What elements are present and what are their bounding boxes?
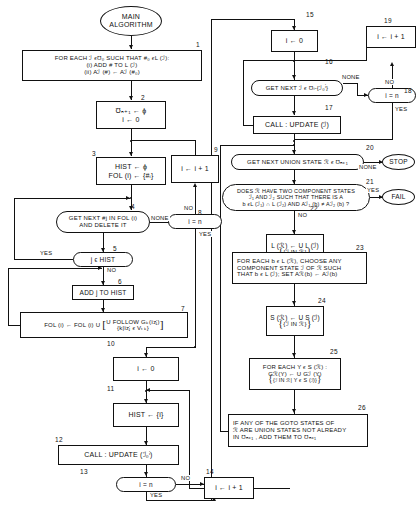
node-12: CALL : UPDATE (ℐ₀ⁱ) [58,445,179,465]
node-8: i = n [168,214,222,229]
node-7-lhs: FOL (i) ← FOL (i) U [44,322,100,329]
node-6: ADD j TO HIST [72,285,134,300]
step-number-1: 1 [196,41,200,48]
node-26-line3: IN Ʊₙ₊₁ , ADD THEM TO Ʊₙ₊₁ [233,434,365,441]
node-26-line1: IF ANY OF THE GOTO STATES OF [233,420,365,427]
node-24-line2: {ℐ IN ℛ} [283,321,306,328]
step-number-2: 2 [141,94,145,101]
node-19-line1: i ← i + 1 [375,32,407,42]
node-14: i ← i + 1 [204,477,254,499]
node-26-line2: ℛ ARE UNION STATES NOT ALREADY [233,427,365,434]
node-23-line2: COMPONENT STATE ℐ OF ℛ SUCH [237,265,364,272]
node-4: GET NEXT #j IN FOL (i) AND DELETE IT [56,211,150,233]
node-start: MAIN ALGORITHM [100,6,162,36]
node-25: FOR EACH Y ϵ S (ℛ) : Gℛ(Y) ← U Gℐ (Y) { … [249,358,341,390]
node-9: i ← i + 1 [171,155,219,183]
edge-label-none-4: NONE [150,215,170,221]
edge-label-yes-18: YES [394,106,408,112]
step-number-24: 24 [318,297,326,304]
step-number-20: 20 [366,144,374,151]
node-13: i = n [116,477,176,492]
edge-label-yes-13: YES [149,492,163,498]
edge-label-no-18: NO [384,79,395,85]
node-20: GET NEXT UNION STATE ℛ ϵ Ʊₙ₊₁ [231,154,364,170]
node-9-line1: i ← i + 1 [179,164,211,174]
step-number-3: 3 [92,150,96,157]
node-7: FOL (i) ← FOL (i) U [ U FOLLOW Gₖ(ïzⱼ) {… [20,312,188,338]
edge-label-yes-21: YES [366,187,380,193]
node-fail-label: FAIL [389,192,407,201]
step-number-16: 16 [325,58,333,65]
edge-label-no-21: NO [297,212,308,218]
node-23: FOR EACH b ϵ L (ℛ), CHOOSE ANY COMPONENT… [232,252,367,284]
step-number-22: 22 [310,205,318,212]
node-8-line1: i = n [186,217,203,226]
node-18-line1: i = n [383,91,400,100]
node-19: i ← i + 1 [366,26,416,48]
node-7-frac-bot: {k|ïzⱼ ϵ Vₜₖ} [106,325,160,331]
node-2-line2: i ← 0 [99,116,163,124]
node-fail: FAIL [382,189,415,205]
node-4-line2: AND DELETE IT [59,222,147,229]
step-number-21: 21 [366,178,374,185]
step-number-17: 17 [325,104,333,111]
node-21-line3: b ϵL (ℐ₁) ∩ L (ℐ₂) AND Aℐ₁ (b) ≠ Aℐ₂ (b)… [225,201,367,207]
edge-label-yes-5: YES [39,250,53,256]
edge-label-no-13: NO [180,475,191,481]
step-number-15: 15 [306,11,314,18]
node-11-line1: HIST ← {i} [127,410,166,420]
node-15-line1: i ← 0 [284,36,305,46]
node-24: S (ℛ) ← U S (ℐ) { {ℐ IN ℛ} } [266,306,324,336]
node-5-line1: j ϵ HIST [89,255,117,264]
step-number-13: 13 [80,468,88,475]
node-25-line3: {ℐ IN ℛ| Y ϵ S (ℐ)} [273,377,317,383]
edge-label-no-5: NO [106,267,117,273]
node-3-line2: FOL (i) ← {#ᵢ} [99,172,163,180]
node-17-line1: CALL : UPDATE (ℐ) [263,120,331,130]
node-21: DOES ℛ HAVE TWO COMPONENT STATES ℐ₁ AND … [222,184,370,211]
step-number-26: 26 [358,404,366,411]
step-number-19: 19 [384,17,392,24]
step-number-23: 23 [356,244,364,251]
step-number-6: 6 [118,278,122,285]
node-10-line1: i ← 0 [135,364,156,374]
node-5: j ϵ HIST [73,252,133,267]
node-start-line1: MAIN [109,13,152,21]
node-1-line1: FOR EACH ℐ ϵƱ₀ SUCH THAT #₀ ϵL (ℐ): [25,55,199,62]
step-number-7: 7 [181,305,185,312]
node-6-line1: ADD j TO HIST [78,288,129,297]
step-number-18: 18 [404,87,412,94]
node-12-line1: CALL : UPDATE (ℐ₀ⁱ) [82,450,154,460]
step-number-4: 4 [131,203,135,210]
node-1-line3: (ii) Aℐ (#) ← Aℐ (#₀) [25,69,199,76]
edge-label-no-8: NO [183,205,194,211]
node-25-line1: FOR EACH Y ϵ S (ℛ) : [252,364,338,371]
node-11: HIST ← {i} [113,403,179,427]
node-15: i ← 0 [271,30,318,52]
step-number-10: 10 [107,340,115,347]
node-26: IF ANY OF THE GOTO STATES OF ℛ ARE UNION… [228,414,368,447]
step-number-12: 12 [55,436,63,443]
node-10: i ← 0 [113,357,179,381]
step-number-14: 14 [206,468,214,475]
node-13-line1: i = n [137,480,154,489]
node-1: FOR EACH ℐ ϵƱ₀ SUCH THAT #₀ ϵL (ℐ): (i) … [22,50,202,81]
edge-label-none-20: NONE [358,164,378,170]
node-2: Ʊₙ₊₁ ← ϕ i ← 0 [96,101,166,129]
node-4-line1: GET NEXT #j IN FOL (i) [59,215,147,222]
step-number-5: 5 [113,245,117,252]
node-16: GET NEXT ℐ ϵ Ʊᵢ-{ℐ₀ⁱ} [251,80,343,96]
node-stop: STOP [382,154,415,170]
node-14-line1: i ← i + 1 [213,483,245,493]
step-number-11: 11 [107,385,114,392]
step-number-9: 9 [214,146,218,153]
node-3-line1: HIST ← ϕ [99,163,163,171]
node-17: CALL : UPDATE (ℐ) [253,116,341,134]
edge-label-none-16: NONE [341,74,361,80]
node-25-line2: Gℛ(Y) ← U Gℐ (Y) [252,371,338,378]
edge-label-yes-8: YES [198,231,212,237]
node-23-line3: THAT b ϵ L (ℐ); SET Aℛ(b) ← Aℐ(b) [237,271,364,278]
node-2-line1: Ʊₙ₊₁ ← ϕ [99,107,163,115]
node-23-line1: FOR EACH b ϵ L (ℛ), CHOOSE ANY [237,258,364,265]
node-16-line1: GET NEXT ℐ ϵ Ʊᵢ-{ℐ₀ⁱ} [264,84,331,93]
